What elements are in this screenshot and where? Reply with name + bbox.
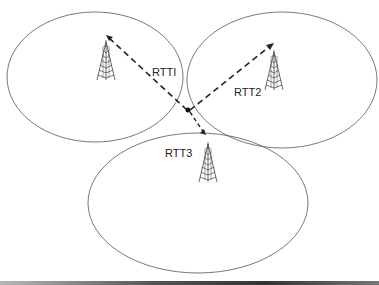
arrowhead-3-icon (200, 129, 206, 135)
arrowhead-2-icon (266, 43, 274, 50)
trilateration-diagram: RTTI RTT2 RTT3 (0, 0, 379, 285)
rtt3-dashed-line (190, 112, 204, 133)
rtt2-dashed-line (190, 46, 270, 110)
cell-tower-3-icon (199, 142, 217, 182)
cell-tower-2-icon (265, 50, 283, 90)
coverage-ellipse-2 (187, 12, 377, 148)
rtt2-label: RTT2 (234, 86, 261, 98)
device-location-marker (186, 108, 191, 113)
rtt3-label: RTT3 (165, 147, 192, 159)
bottom-border (0, 281, 379, 285)
cell-tower-1-icon (97, 40, 115, 80)
coverage-ellipse-3 (88, 133, 308, 273)
rtt1-label: RTTI (152, 66, 176, 78)
